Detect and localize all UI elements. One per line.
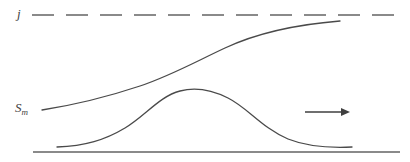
asymptote-label: j <box>17 7 21 20</box>
right-arrow-icon <box>305 108 350 116</box>
arrow-head <box>341 108 350 116</box>
sigmoid-curve <box>42 21 340 110</box>
sigmoid-start-label: Sm <box>15 101 28 117</box>
figure-canvas: j Sm <box>0 0 410 162</box>
sigmoid-label-subscript: m <box>22 107 29 117</box>
figure-graphic <box>0 0 410 162</box>
